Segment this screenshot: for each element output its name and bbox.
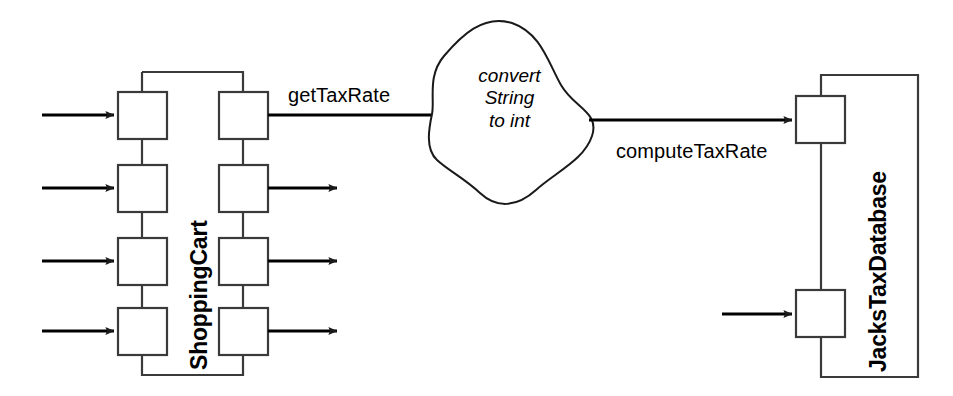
flow-label-compute-tax-rate: computeTaxRate [616,140,767,163]
component-label-shopping-cart: ShoppingCart [186,220,213,370]
shopping-cart-output-ports [219,92,268,355]
shopping-cart-input-ports [118,92,167,355]
jacks-tax-database-input-ports [796,96,845,337]
convert-blob-line-2: String [442,87,577,109]
component-label-jacks-tax-database: JacksTaxDatabase [865,171,892,372]
shopping-cart-incoming-arrows [42,115,114,331]
diagram-vector-layer [0,0,953,396]
convert-blob-line-1: convert [442,65,577,87]
flow-label-get-tax-rate: getTaxRate [288,84,390,107]
shopping-cart-outgoing-arrows [268,188,337,331]
diagram-canvas: getTaxRate computeTaxRate convert String… [0,0,953,396]
convert-blob-text: convert String to int [442,65,577,132]
convert-blob-line-3: to int [442,110,577,132]
